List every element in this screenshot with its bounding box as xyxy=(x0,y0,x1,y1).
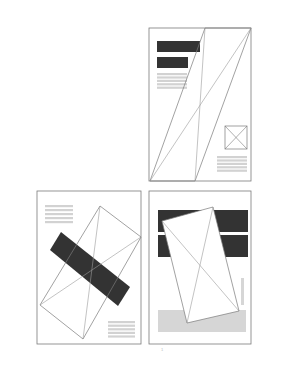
text-placeholder-lines xyxy=(45,205,73,207)
page-layout-diagram xyxy=(0,0,290,371)
text-placeholder-lines xyxy=(217,163,247,165)
headline-block xyxy=(157,57,188,68)
text-placeholder-lines xyxy=(45,217,73,219)
text-placeholder-lines xyxy=(108,335,135,337)
text-placeholder-lines xyxy=(157,87,187,89)
headline-block xyxy=(157,41,200,52)
text-placeholder-lines xyxy=(157,80,187,82)
page-number: 1 xyxy=(161,347,163,352)
text-placeholder-lines xyxy=(108,321,135,323)
text-placeholder-lines xyxy=(45,209,73,211)
text-placeholder-lines xyxy=(157,83,187,85)
text-placeholder-lines xyxy=(217,159,247,161)
text-placeholder-lines xyxy=(108,328,135,330)
text-placeholder-lines xyxy=(45,221,73,223)
text-placeholder-lines xyxy=(157,76,187,78)
text-placeholder-lines xyxy=(108,325,135,327)
text-placeholder-lines xyxy=(217,166,247,168)
text-placeholder-lines xyxy=(217,156,247,158)
text-placeholder-lines xyxy=(45,213,73,215)
vertical-bar xyxy=(241,278,244,305)
text-placeholder-lines xyxy=(217,170,247,172)
text-placeholder-lines xyxy=(157,73,187,75)
text-placeholder-lines xyxy=(108,332,135,334)
